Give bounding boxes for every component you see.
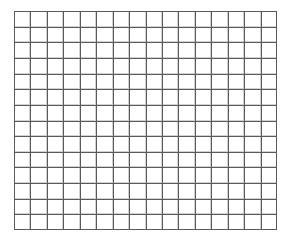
plot-empty-state bbox=[14, 11, 277, 230]
screenshot-canvas bbox=[0, 0, 290, 245]
grid-plot-area[interactable] bbox=[14, 11, 277, 230]
